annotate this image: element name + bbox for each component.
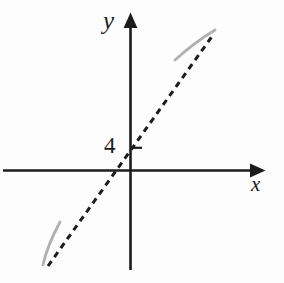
figure-background: [0, 0, 284, 283]
y-tick-label: 4: [104, 133, 116, 158]
y-axis-label: y: [100, 7, 115, 34]
math-figure: y x 4: [0, 0, 284, 283]
x-axis-label: x: [250, 172, 261, 196]
graph-canvas: y x 4: [0, 0, 284, 283]
